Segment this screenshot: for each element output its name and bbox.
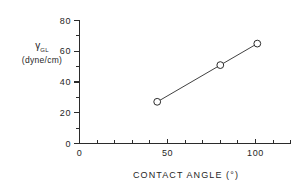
x-axis-title: CONTACT ANGLE (°) <box>133 170 239 180</box>
data-point-marker <box>154 98 161 105</box>
y-tick-label-80: 80 <box>60 16 71 26</box>
y-axis-units: (dyne/cm) <box>22 55 63 65</box>
data-point-marker <box>254 40 261 47</box>
chart-figure: 0 20 40 60 80 0 50 100 γGL (dyne/cm) CON… <box>0 0 304 188</box>
data-series-line <box>159 44 257 101</box>
y-tick-label-0: 0 <box>65 139 71 149</box>
y-tick-label-40: 40 <box>60 77 71 87</box>
y-tick-label-20: 20 <box>60 108 71 118</box>
y-axis-title-subscript: GL <box>40 47 49 53</box>
x-tick-label-50: 50 <box>162 148 173 158</box>
data-point-marker <box>217 62 224 69</box>
x-tick-label-0: 0 <box>77 148 83 158</box>
x-tick-label-100: 100 <box>247 148 264 158</box>
line-chart: 0 20 40 60 80 0 50 100 γGL (dyne/cm) CON… <box>0 0 304 188</box>
y-axis-title: γGL <box>35 40 49 53</box>
